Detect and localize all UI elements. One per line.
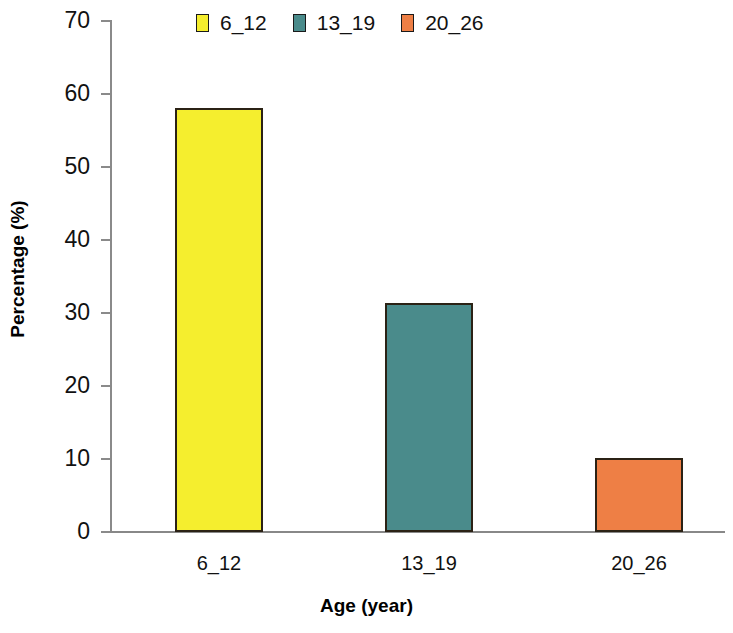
y-tick-label-40: 40 [26,226,90,253]
y-axis-title: Percentage (%) [7,169,29,369]
y-axis-tick-labels: 70 60 50 40 30 20 10 0 [26,0,90,633]
y-tick-mark-70 [101,20,110,22]
x-tick-label-0: 6_12 [197,552,242,575]
bar-6-12 [175,108,263,532]
legend-label-2: 20_26 [425,11,483,35]
y-tick-label-10: 10 [26,445,90,472]
y-tick-label-60: 60 [26,80,90,107]
legend-swatch-icon-1 [293,14,306,32]
y-tick-label-0: 0 [26,518,90,545]
y-axis-line [110,20,112,533]
bar-chart-figure: 6_12 13_19 20_26 70 60 50 40 30 20 10 0 … [0,0,733,633]
x-axis-title: Age (year) [0,595,733,617]
legend-label-1: 13_19 [317,11,375,35]
y-tick-mark-20 [101,385,110,387]
legend-swatch-icon-0 [196,14,209,32]
y-tick-label-20: 20 [26,372,90,399]
y-tick-mark-50 [101,166,110,168]
chart-legend: 6_12 13_19 20_26 [196,9,510,37]
x-tick-label-2: 20_26 [611,552,667,575]
legend-item-0: 6_12 [196,11,293,35]
legend-item-1: 13_19 [293,11,401,35]
legend-swatch-icon-2 [401,14,414,32]
y-tick-label-70: 70 [26,7,90,34]
legend-label-0: 6_12 [220,11,267,35]
y-tick-mark-40 [101,239,110,241]
y-tick-label-50: 50 [26,153,90,180]
y-tick-label-30: 30 [26,299,90,326]
bar-20-26 [595,458,683,532]
bar-13-19 [385,303,473,532]
x-tick-label-1: 13_19 [401,552,457,575]
y-tick-mark-10 [101,458,110,460]
legend-item-2: 20_26 [401,11,509,35]
y-tick-mark-30 [101,312,110,314]
y-tick-mark-60 [101,93,110,95]
y-tick-mark-0 [101,531,110,533]
